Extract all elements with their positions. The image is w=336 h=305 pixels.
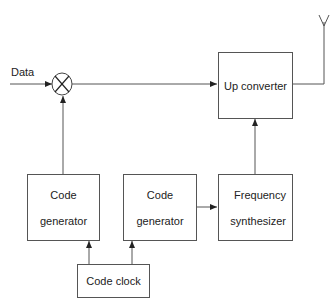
- code-generator-2-block: Code generator: [123, 174, 197, 241]
- code-generator-1-line2: generator: [40, 208, 87, 234]
- data-input-label: Data: [11, 66, 34, 78]
- code-clock-block: Code clock: [77, 264, 150, 298]
- upconverter-to-antenna-line: [292, 22, 324, 84]
- code-generator-2-line2: generator: [136, 208, 183, 234]
- code-generator-2-line1: Code: [147, 182, 173, 208]
- code-generator-1-block: Code generator: [27, 174, 100, 241]
- frequency-synthesizer-line2: synthesizer: [230, 208, 286, 234]
- mixer-icon: [52, 73, 72, 95]
- code-generator-1-line1: Code: [50, 182, 76, 208]
- diagram-canvas: [0, 0, 336, 305]
- frequency-synthesizer-block: Frequency synthesizer: [218, 174, 293, 241]
- code-clock-label: Code clock: [86, 268, 140, 294]
- frequency-synthesizer-line1: Frequency: [234, 182, 286, 208]
- up-converter-label: Up converter: [224, 73, 287, 99]
- up-converter-block: Up converter: [218, 52, 293, 119]
